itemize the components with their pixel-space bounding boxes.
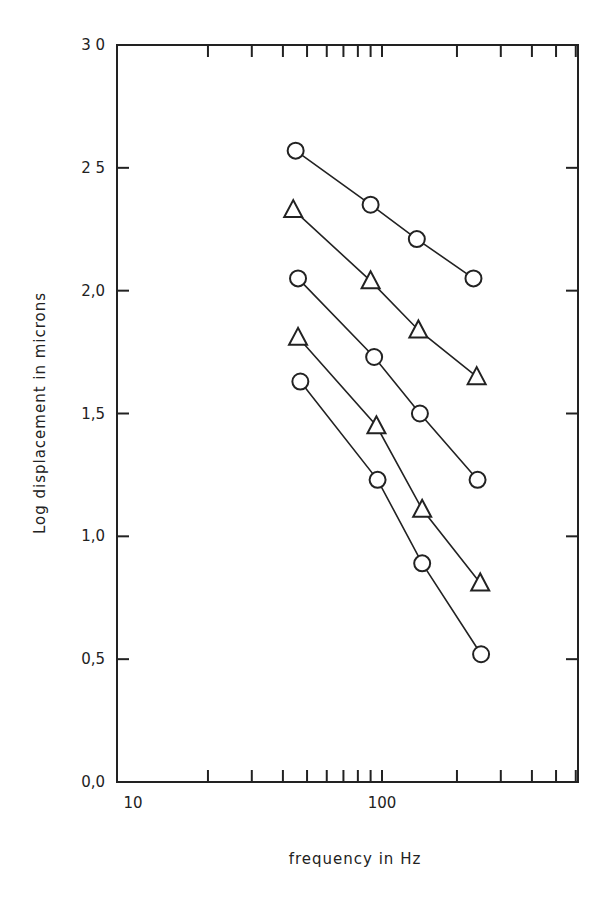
circle-marker [363,197,379,213]
circle-marker [473,646,489,662]
y-tick-label: 1,5 [81,405,105,423]
y-axis-title: Log displacement in microns [31,292,49,534]
circle-marker [414,555,430,571]
series-1 [288,143,482,287]
series-layer [284,143,489,663]
circle-marker [366,349,382,365]
series-line [298,278,478,479]
y-tick-label: 0,5 [81,650,105,668]
triangle-marker [413,500,431,517]
circle-marker [465,270,481,286]
triangle-marker [284,200,302,217]
circle-marker [470,472,486,488]
circle-marker [409,231,425,247]
y-tick-label: 2,0 [81,282,105,300]
series-3 [290,270,486,487]
circle-marker [290,270,306,286]
series-line [296,151,474,279]
series-line [300,382,481,655]
plot-frame [117,45,578,782]
y-tick-label: 1,0 [81,527,105,545]
series-line [293,210,476,377]
x-axis-title: frequency in Hz [289,850,422,868]
circle-marker [288,143,304,159]
x-tick-label: 10 [123,794,142,812]
y-tick-label: 2 5 [81,159,105,177]
triangle-marker [468,367,486,384]
triangle-marker [289,328,307,345]
y-tick-label: 3 0 [81,36,105,54]
triangle-marker [362,271,380,288]
plot-axes: 0,00,51,01,52,02 53 010100 [81,36,578,812]
circle-marker [292,374,308,390]
circle-marker [370,472,386,488]
x-tick-label: 100 [368,794,397,812]
series-line [298,337,480,583]
series-5 [292,374,489,663]
circle-marker [412,406,428,422]
chart: 0,00,51,01,52,02 53 010100 frequency in … [0,0,603,899]
y-tick-label: 0,0 [81,773,105,791]
